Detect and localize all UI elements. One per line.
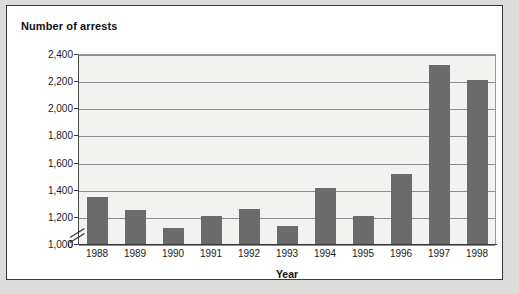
bar-series [78,54,496,244]
x-tick-label: 1991 [200,248,222,259]
y-tick-label: 1,200 [19,211,73,222]
x-tick-label: 1990 [162,248,184,259]
x-tick-label: 1988 [86,248,108,259]
x-tick-label: 1998 [466,248,488,259]
x-tick-label: 1996 [390,248,412,259]
bar [163,228,184,244]
bar [125,210,146,244]
x-tick-label: 1994 [314,248,336,259]
bar [353,216,374,245]
y-tick-mark [74,190,78,191]
x-axis-labels: 1988198919901991199219931994199519961997… [78,248,496,262]
bar [277,226,298,244]
x-tick-label: 1992 [238,248,260,259]
bar [239,209,260,244]
y-tick-label: 2,200 [19,76,73,87]
bar [429,65,450,244]
axis-break-icon [69,225,89,243]
y-tick-mark [74,135,78,136]
gridline [79,245,495,246]
y-tick-label: 1,800 [19,130,73,141]
bar [87,197,108,245]
chart-page: Number of arrests 2,4002,2002,0001,8001,… [0,0,519,294]
bar [391,174,412,244]
y-tick-mark [74,54,78,55]
bar [201,216,222,244]
x-tick-label: 1993 [276,248,298,259]
y-axis-labels: 2,4002,2002,0001,8001,6001,4001,2001,000… [15,6,73,294]
y-tick-mark [74,81,78,82]
x-axis-line [78,244,497,245]
y-tick-label: 2,000 [19,103,73,114]
y-tick-label: 0 [19,239,73,250]
x-tick-label: 1989 [124,248,146,259]
y-tick-mark [74,217,78,218]
y-tick-mark [74,163,78,164]
y-tick-mark [74,244,78,245]
x-tick-label: 1995 [352,248,374,259]
y-tick-label: 1,600 [19,157,73,168]
chart-card: Number of arrests 2,4002,2002,0001,8001,… [6,5,503,280]
y-tick-label: 1,400 [19,184,73,195]
x-axis-title: Year [78,268,496,280]
bar [467,80,488,244]
x-tick-label: 1997 [428,248,450,259]
bar [315,188,336,244]
y-tick-label: 2,400 [19,49,73,60]
y-tick-mark [74,108,78,109]
